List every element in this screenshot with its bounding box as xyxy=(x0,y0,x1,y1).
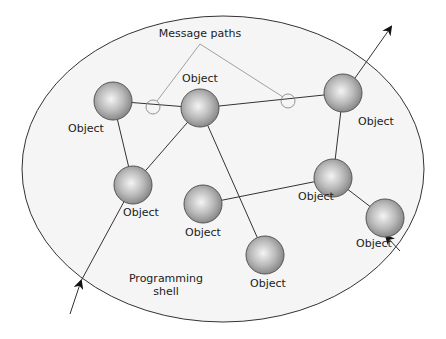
diagram-canvas: ObjectObjectObjectObjectObjectObjectObje… xyxy=(0,0,446,339)
object-label: Object xyxy=(182,72,219,85)
sphere-icon xyxy=(114,166,152,204)
object-label: Object xyxy=(185,226,222,239)
sphere-icon xyxy=(184,185,222,223)
object-label: Object xyxy=(68,122,105,135)
sphere-icon xyxy=(246,236,284,274)
programming-shell-label-line2: shell xyxy=(153,285,179,298)
object-node-F: Object xyxy=(184,185,222,239)
object-network-diagram: ObjectObjectObjectObjectObjectObjectObje… xyxy=(0,0,446,339)
sphere-icon xyxy=(366,199,404,237)
object-label: Object xyxy=(250,277,287,290)
programming-shell-label-line1: Programming xyxy=(129,272,203,285)
object-label: Object xyxy=(356,237,393,250)
object-node-G: Object xyxy=(246,236,287,290)
object-node-B: Object xyxy=(181,72,219,127)
sphere-icon xyxy=(181,89,219,127)
message-paths-label: Message paths xyxy=(159,27,242,40)
sphere-icon xyxy=(324,74,362,112)
sphere-icon xyxy=(94,82,132,120)
programming-shell xyxy=(22,16,424,322)
object-label: Object xyxy=(298,190,335,203)
object-label: Object xyxy=(358,115,395,128)
incoming-arrow-bottom-left-icon xyxy=(70,281,81,314)
object-label: Object xyxy=(123,206,160,219)
